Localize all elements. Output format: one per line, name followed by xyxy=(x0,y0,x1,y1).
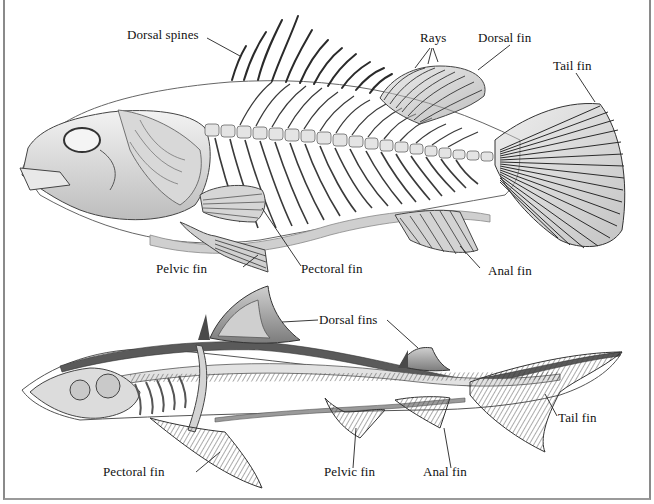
label-shark-anal-fin: Anal fin xyxy=(423,464,467,480)
label-shark-tail-fin: Tail fin xyxy=(558,410,597,426)
label-bony-pectoral-fin: Pectoral fin xyxy=(301,261,362,277)
label-shark-dorsal-fins: Dorsal fins xyxy=(319,312,378,328)
label-shark-pectoral-fin: Pectoral fin xyxy=(103,464,164,480)
shark-anal-fin xyxy=(395,397,450,428)
shark-pelvic-fin xyxy=(325,398,385,438)
label-bony-tail-fin: Tail fin xyxy=(553,58,592,74)
label-bony-pelvic-fin: Pelvic fin xyxy=(156,261,207,277)
shark-illustration xyxy=(0,0,654,504)
label-shark-pelvic-fin: Pelvic fin xyxy=(324,464,375,480)
shark-second-dorsal-fin xyxy=(398,348,450,371)
shark-first-dorsal-fin xyxy=(198,286,300,343)
shark-pectoral-girdle xyxy=(188,345,207,432)
label-dorsal-fin: Dorsal fin xyxy=(478,30,531,46)
shark-pectoral-fin xyxy=(150,418,262,488)
label-rays: Rays xyxy=(420,30,446,46)
label-bony-anal-fin: Anal fin xyxy=(488,263,532,279)
shark-tail-fin xyxy=(470,352,622,452)
label-dorsal-spines: Dorsal spines xyxy=(127,27,199,43)
